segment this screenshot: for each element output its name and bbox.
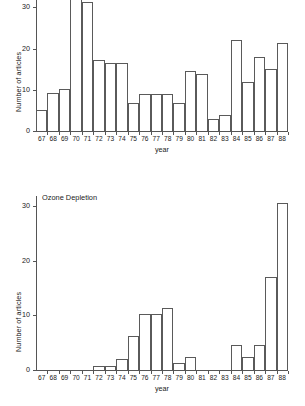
- bar-72: [93, 366, 104, 370]
- bar-74: [116, 63, 127, 131]
- x-tick-label-88: 88: [275, 374, 290, 381]
- bar-68: [47, 93, 58, 131]
- bar-80: [185, 71, 196, 131]
- bar-79: [173, 103, 184, 131]
- bar-72: [93, 60, 104, 131]
- y-tick-mark: [33, 206, 36, 207]
- bar-88: [277, 43, 288, 131]
- y-tick-mark: [33, 90, 36, 91]
- y-tick-mark: [33, 131, 36, 132]
- x-axis-title-bottom: year: [36, 384, 288, 393]
- chart-articles-by-year-ozone: Number of articles Ozone Depletion 01020…: [0, 180, 305, 406]
- bar-79: [173, 363, 184, 370]
- bar-84: [231, 345, 242, 370]
- y-tick-label: 20: [10, 44, 30, 53]
- bar-76: [139, 314, 150, 370]
- bar-77: [151, 94, 162, 131]
- bar-85: [242, 357, 253, 370]
- bar-85: [242, 82, 253, 132]
- plot-area-top: Number of articles 0102030 6768697071727…: [0, 0, 305, 180]
- bar-78: [162, 308, 173, 370]
- bar-75: [128, 336, 139, 370]
- y-tick-label: 20: [10, 256, 30, 265]
- bar-76: [139, 94, 150, 131]
- y-tick-mark: [33, 370, 36, 371]
- bar-78: [162, 94, 173, 131]
- bar-69: [59, 89, 70, 131]
- y-axis-title-top: Number of articles: [14, 52, 23, 112]
- y-tick-label: 30: [10, 201, 30, 210]
- bar-83: [219, 115, 230, 132]
- y-tick-mark: [33, 49, 36, 50]
- bar-88: [277, 203, 288, 370]
- bar-75: [128, 103, 139, 131]
- bar-71: [82, 2, 93, 131]
- bar-73: [105, 366, 116, 370]
- y-tick-mark: [33, 315, 36, 316]
- bar-70: [70, 0, 81, 131]
- y-tick-mark: [33, 261, 36, 262]
- bar-77: [151, 314, 162, 370]
- bar-81: [196, 74, 207, 131]
- bar-87: [265, 69, 276, 131]
- y-axis-title-bottom: Number of articles: [14, 292, 23, 352]
- y-tick-label: 0: [10, 365, 30, 374]
- x-axis-title-top: year: [36, 145, 288, 154]
- y-tick-mark: [33, 7, 36, 8]
- y-tick-label: 10: [10, 310, 30, 319]
- y-tick-label: 10: [10, 85, 30, 94]
- chart-articles-by-year-top: Number of articles 0102030 6768697071727…: [0, 0, 305, 180]
- bar-67: [36, 110, 47, 131]
- bar-73: [105, 63, 116, 131]
- bar-84: [231, 40, 242, 131]
- bar-82: [208, 119, 219, 131]
- bar-74: [116, 359, 127, 370]
- bar-87: [265, 277, 276, 370]
- chart-title-ozone-depletion: Ozone Depletion: [42, 193, 97, 202]
- plot-area-bottom: Number of articles Ozone Depletion 01020…: [0, 180, 305, 406]
- bar-80: [185, 357, 196, 370]
- bar-86: [254, 57, 265, 131]
- y-tick-label: 30: [10, 2, 30, 11]
- bar-86: [254, 345, 265, 370]
- x-tick-label-88: 88: [275, 135, 290, 142]
- y-tick-label: 0: [10, 126, 30, 135]
- y-axis-line-bottom: [36, 196, 37, 371]
